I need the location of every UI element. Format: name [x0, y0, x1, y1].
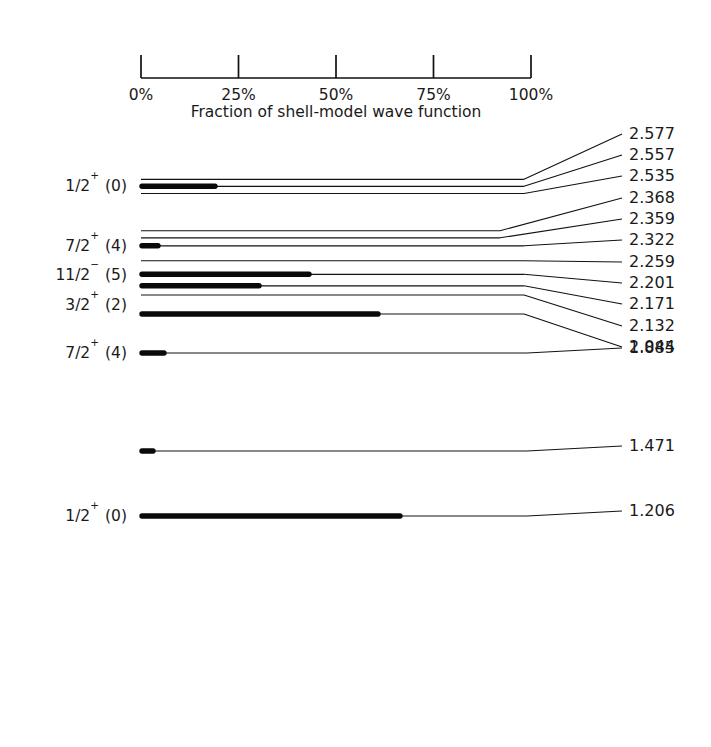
- energy-level-lines: [141, 179, 527, 516]
- energy-label-2.557: 2.557: [629, 145, 675, 164]
- axis-tick-labels: 0%25%50%75%100%: [129, 86, 553, 104]
- leader-line-2.577: [524, 134, 622, 179]
- energy-label-2.201: 2.201: [629, 273, 675, 292]
- energy-label-2.322: 2.322: [629, 230, 675, 249]
- leader-line-2.557: [524, 155, 622, 186]
- spin-parity-labels: 1/2+(0)7/2+(4)11/2−(5)3/2+(2)7/2+(4)1/2+…: [55, 169, 127, 525]
- leader-line-2.201: [524, 274, 622, 283]
- percentage-scale-axis: [141, 55, 531, 78]
- energy-label-2.171: 2.171: [629, 294, 675, 313]
- energy-label-2.577: 2.577: [629, 124, 675, 143]
- axis-tick-label-50: 50%: [319, 86, 353, 104]
- leader-line-2.259: [524, 261, 622, 262]
- energy-label-2.132: 2.132: [629, 316, 675, 335]
- spin-parity-label-3: 3/2+(2): [65, 288, 127, 314]
- leader-line-2.132: [524, 295, 622, 326]
- leader-line-2.368: [500, 198, 622, 231]
- spin-parity-label-1: 7/2+(4): [65, 229, 127, 255]
- leader-line-1.471: [527, 446, 622, 451]
- leader-line-2.044: [524, 314, 622, 347]
- energy-label-2.359: 2.359: [629, 209, 675, 228]
- axis-tick-label-25: 25%: [221, 86, 255, 104]
- axis-tick-label-100: 100%: [509, 86, 553, 104]
- level-diagram-svg: 0%25%50%75%100% 1/2+(0)7/2+(4)11/2−(5)3/…: [0, 0, 711, 747]
- energy-label-2.368: 2.368: [629, 188, 675, 207]
- energy-label-1.471: 1.471: [629, 436, 675, 455]
- leader-line-2.359: [500, 219, 622, 238]
- leader-line-2.535: [524, 176, 622, 194]
- spin-parity-label-0: 1/2+(0): [65, 169, 127, 195]
- label-leader-lines: [500, 134, 622, 516]
- energy-label-1.885: 1.885: [629, 338, 675, 357]
- spin-parity-label-2: 11/2−(5): [55, 258, 127, 284]
- leader-line-1.885: [527, 348, 622, 353]
- energy-label-2.535: 2.535: [629, 166, 675, 185]
- axis-caption: Fraction of shell-model wave function: [191, 103, 482, 121]
- spin-parity-label-4: 7/2+(4): [65, 336, 127, 362]
- energy-value-labels: 2.5772.5572.5352.3682.3592.3222.2592.201…: [629, 124, 675, 520]
- leader-line-2.322: [524, 240, 622, 246]
- energy-label-1.206: 1.206: [629, 501, 675, 520]
- spin-parity-label-5: 1/2+(0): [65, 499, 127, 525]
- figure-root: 0%25%50%75%100% 1/2+(0)7/2+(4)11/2−(5)3/…: [0, 0, 711, 747]
- axis-tick-label-0: 0%: [129, 86, 154, 104]
- leader-line-2.171: [524, 286, 622, 304]
- energy-label-2.259: 2.259: [629, 252, 675, 271]
- leader-line-1.206: [527, 511, 622, 516]
- axis-tick-label-75: 75%: [416, 86, 450, 104]
